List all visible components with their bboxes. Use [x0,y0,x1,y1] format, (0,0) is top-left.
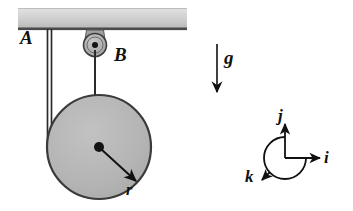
label-unit-vector-i: i [324,149,329,166]
label-cord-a: A [20,28,33,47]
disk [47,95,151,199]
diagram-canvas [0,0,353,211]
label-pulley-b: B [114,45,127,64]
pulley-b-hub [92,42,98,48]
label-unit-vector-j: j [278,107,283,124]
mechanics-figure: A B r g i j k [0,0,353,211]
axis-k [262,172,270,180]
label-radius: r [126,182,132,198]
label-unit-vector-k: k [245,168,254,185]
ceiling-support [18,8,187,30]
coordinate-triad [262,124,320,180]
label-gravity: g [224,48,234,67]
